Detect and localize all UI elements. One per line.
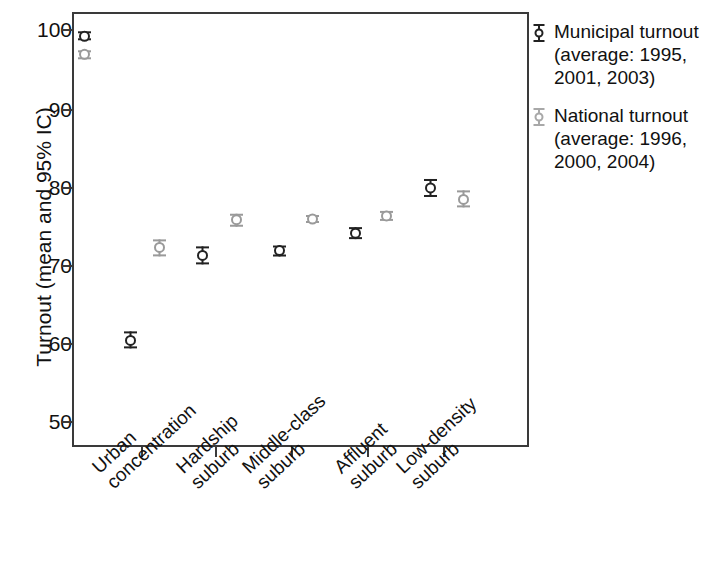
legend-label-municipal: Municipal turnout (average: 1995, 2001, …: [554, 21, 699, 88]
data-point: [349, 228, 362, 240]
legend-entry-national: National turnout (average: 1996, 2000, 2…: [528, 104, 709, 174]
errorbar-circle-dark-icon: [532, 24, 546, 42]
y-tick-mark-70: [62, 265, 72, 267]
data-point: [230, 214, 243, 227]
legend: Municipal turnout (average: 1995, 2001, …: [528, 20, 709, 187]
turnout-scatter-figure: Turnout (mean and 95% IC) 100 90 80 70 6…: [0, 0, 709, 566]
data-point: [273, 245, 286, 256]
data-point: [457, 190, 470, 207]
data-point: [153, 239, 166, 256]
data-point: [306, 215, 319, 223]
data-point: [124, 331, 137, 348]
data-point: [196, 247, 209, 264]
legend-label-national: National turnout (average: 1996, 2000, 2…: [554, 105, 688, 172]
data-point: [380, 211, 393, 221]
data-point: [424, 179, 437, 197]
y-tick-mark-50: [62, 421, 72, 423]
plot-area: [72, 12, 529, 447]
y-tick-mark-90: [62, 109, 72, 111]
y-tick-mark-100: [62, 29, 72, 31]
legend-entry-municipal: Municipal turnout (average: 1995, 2001, …: [528, 20, 709, 90]
y-tick-mark-80: [62, 187, 72, 189]
y-axis-ticks: 100 90 80 70 60 50: [0, 0, 72, 566]
errorbar-circle-light-icon: [532, 108, 546, 126]
y-tick-mark-60: [62, 343, 72, 345]
data-point: [78, 31, 91, 40]
data-point: [78, 50, 91, 59]
